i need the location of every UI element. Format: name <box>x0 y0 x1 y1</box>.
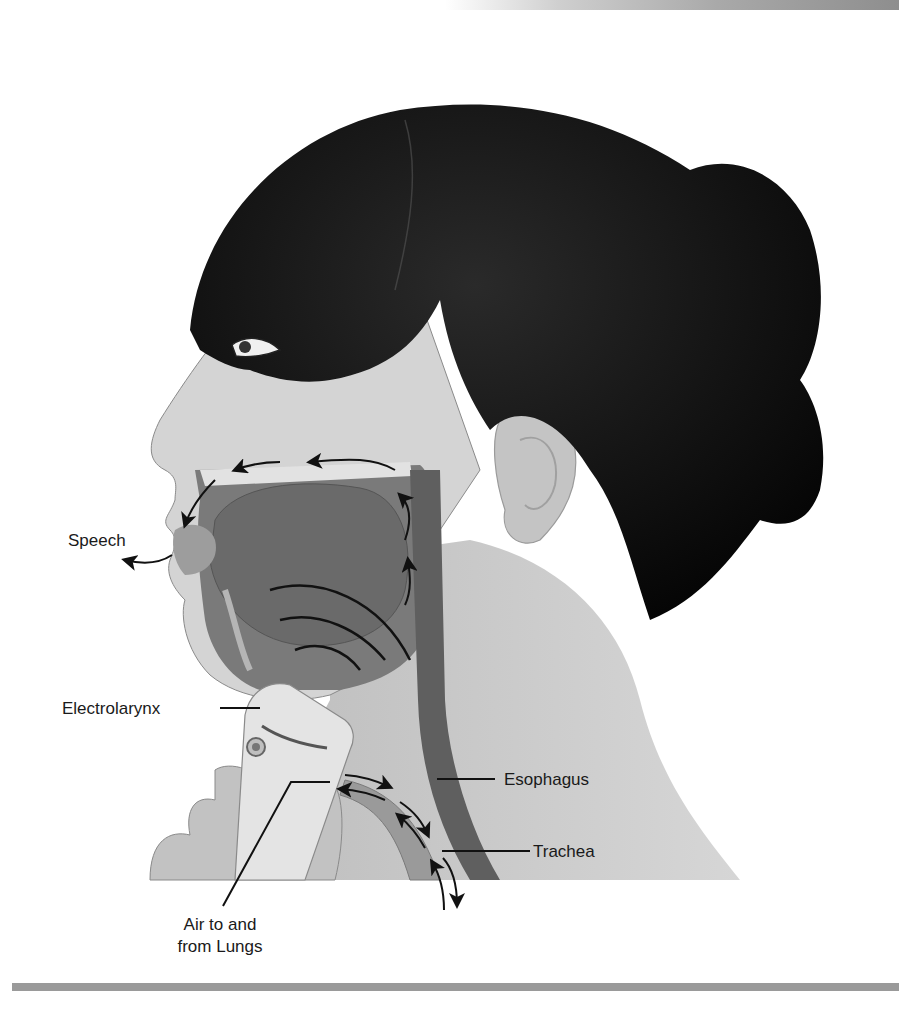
speech-arrow <box>125 555 172 563</box>
label-speech: Speech <box>68 531 126 551</box>
bottom-divider-bar <box>12 983 899 991</box>
label-air-line1: Air to and <box>160 914 280 936</box>
label-air-to-from-lungs: Air to and from Lungs <box>160 914 280 958</box>
label-electrolarynx: Electrolarynx <box>62 699 160 719</box>
label-trachea: Trachea <box>533 842 595 862</box>
anatomy-illustration <box>0 0 899 1029</box>
label-air-line2: from Lungs <box>160 936 280 958</box>
label-esophagus: Esophagus <box>504 770 589 790</box>
